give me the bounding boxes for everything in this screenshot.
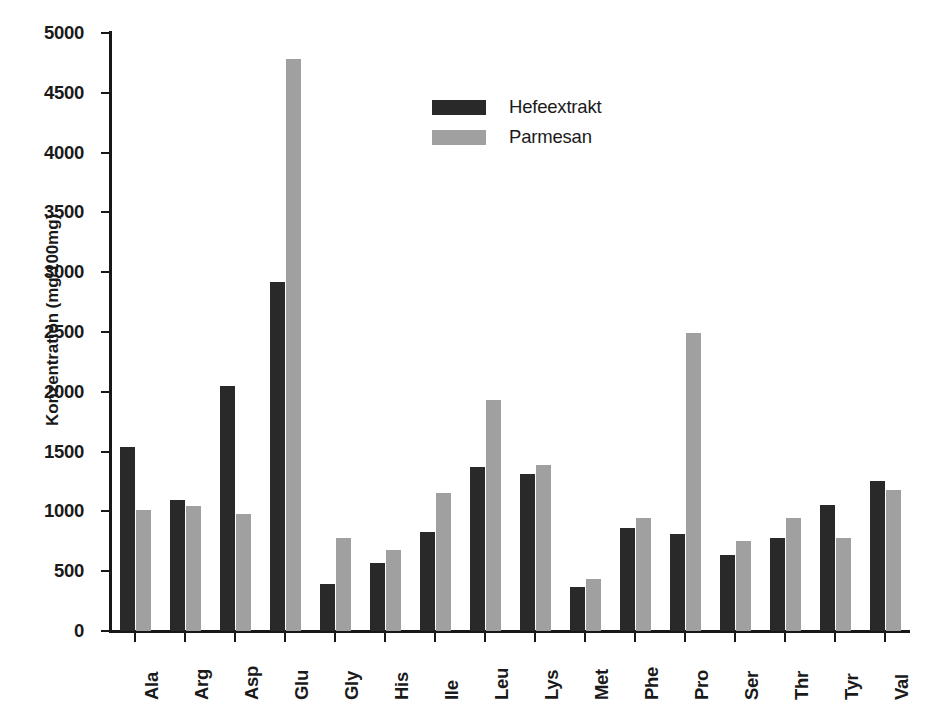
x-tick-label-his: His (393, 672, 412, 700)
x-tick-label-leu: Leu (493, 668, 512, 700)
bar-chart: Konzentration (mg/100mg) 050010001500200… (0, 0, 932, 713)
y-tick-mark (101, 510, 110, 512)
bar-ser-hefeextrakt (720, 555, 735, 631)
x-tick-label-arg: Arg (193, 669, 212, 700)
bar-ile-parmesan (436, 493, 451, 631)
x-tick-label-ile: Ile (443, 680, 462, 700)
x-tick-label-phe: Phe (643, 667, 662, 700)
y-tick-label: 3000 (18, 263, 84, 282)
x-tick-label-thr: Thr (793, 671, 812, 700)
bar-tyr-hefeextrakt (820, 505, 835, 631)
legend: HefeextraktParmesan (432, 92, 601, 152)
x-tick-label-ala: Ala (143, 672, 162, 700)
y-tick-mark (101, 92, 110, 94)
bar-gly-parmesan (336, 538, 351, 631)
legend-swatch-hefeextrakt (432, 100, 486, 115)
bar-leu-parmesan (486, 400, 501, 631)
bar-thr-hefeextrakt (770, 538, 785, 631)
bar-gly-hefeextrakt (320, 584, 335, 631)
y-tick-mark (101, 451, 110, 453)
y-tick-label: 2500 (18, 323, 84, 342)
x-tick-mark (584, 631, 586, 642)
bar-ile-hefeextrakt (420, 532, 435, 631)
x-tick-label-pro: Pro (693, 670, 712, 700)
y-tick-mark (101, 630, 110, 632)
x-tick-mark (434, 631, 436, 642)
y-tick-mark (101, 391, 110, 393)
bar-val-hefeextrakt (870, 481, 885, 631)
x-tick-mark (484, 631, 486, 642)
bar-arg-parmesan (186, 506, 201, 631)
x-tick-label-glu: Glu (293, 670, 312, 700)
y-tick-label: 3500 (18, 203, 84, 222)
bar-met-parmesan (586, 579, 601, 631)
bar-glu-parmesan (286, 59, 301, 631)
x-tick-label-asp: Asp (243, 666, 262, 700)
x-tick-mark (384, 631, 386, 642)
x-tick-mark (334, 631, 336, 642)
bar-glu-hefeextrakt (270, 282, 285, 631)
legend-item-parmesan: Parmesan (432, 122, 601, 152)
x-tick-label-val: Val (893, 674, 912, 700)
legend-swatch-parmesan (432, 130, 486, 145)
y-tick-mark (101, 570, 110, 572)
bar-ala-hefeextrakt (120, 447, 135, 631)
x-tick-mark (134, 631, 136, 642)
x-tick-label-gly: Gly (343, 671, 362, 700)
x-tick-mark (784, 631, 786, 642)
bar-asp-hefeextrakt (220, 386, 235, 631)
bar-lys-hefeextrakt (520, 474, 535, 631)
y-tick-label: 1500 (18, 443, 84, 462)
x-tick-label-ser: Ser (743, 671, 762, 700)
x-tick-mark (884, 631, 886, 642)
x-tick-mark (834, 631, 836, 642)
legend-item-hefeextrakt: Hefeextrakt (432, 92, 601, 122)
legend-label-hefeextrakt: Hefeextrakt (509, 98, 601, 117)
bar-val-parmesan (886, 490, 901, 631)
bar-ser-parmesan (736, 541, 751, 631)
y-tick-label: 5000 (18, 24, 84, 43)
y-tick-label: 4000 (18, 144, 84, 163)
bar-thr-parmesan (786, 518, 801, 631)
x-tick-label-tyr: Tyr (843, 673, 862, 700)
y-tick-label: 1000 (18, 502, 84, 521)
x-tick-mark (684, 631, 686, 642)
x-tick-mark (234, 631, 236, 642)
bar-met-hefeextrakt (570, 587, 585, 631)
y-tick-label: 4500 (18, 84, 84, 103)
bar-his-hefeextrakt (370, 563, 385, 631)
x-tick-mark (534, 631, 536, 642)
y-tick-mark (101, 152, 110, 154)
y-tick-mark (101, 211, 110, 213)
x-tick-label-met: Met (593, 669, 612, 700)
bar-pro-hefeextrakt (670, 534, 685, 631)
x-tick-mark (284, 631, 286, 642)
bar-arg-hefeextrakt (170, 500, 185, 631)
y-tick-mark (101, 271, 110, 273)
bar-tyr-parmesan (836, 538, 851, 631)
y-tick-mark (101, 32, 110, 34)
x-tick-label-lys: Lys (543, 670, 562, 700)
bar-ala-parmesan (136, 510, 151, 631)
y-tick-label: 0 (18, 622, 84, 641)
x-tick-mark (634, 631, 636, 642)
legend-label-parmesan: Parmesan (509, 128, 592, 147)
x-tick-mark (184, 631, 186, 642)
bar-phe-parmesan (636, 518, 651, 631)
bar-phe-hefeextrakt (620, 528, 635, 631)
bar-his-parmesan (386, 550, 401, 631)
y-tick-label: 2000 (18, 383, 84, 402)
bar-asp-parmesan (236, 514, 251, 631)
bar-pro-parmesan (686, 333, 701, 631)
x-tick-mark (734, 631, 736, 642)
bar-leu-hefeextrakt (470, 467, 485, 631)
bar-lys-parmesan (536, 465, 551, 631)
y-tick-label: 500 (18, 562, 84, 581)
y-tick-mark (101, 331, 110, 333)
